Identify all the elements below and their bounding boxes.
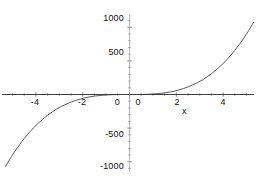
x-tick-label-neg4: -4: [24, 97, 46, 107]
y-tick-label-500: 500: [92, 47, 124, 57]
y-tick-label-1000: 1000: [92, 13, 124, 23]
chart-container: 1000 500 0 -500 -1000 -4 -2 0 2 4 x: [0, 0, 256, 176]
x-tick-label-0: 0: [131, 97, 145, 107]
x-tick-label-neg2: -2: [71, 97, 93, 107]
y-tick-label-neg1000: -1000: [84, 161, 124, 171]
y-tick-label-0: 0: [96, 97, 120, 107]
plot-canvas: [0, 0, 256, 176]
x-axis-title: x: [182, 106, 187, 116]
x-tick-label-4: 4: [212, 97, 234, 107]
y-tick-label-neg500: -500: [88, 129, 124, 139]
